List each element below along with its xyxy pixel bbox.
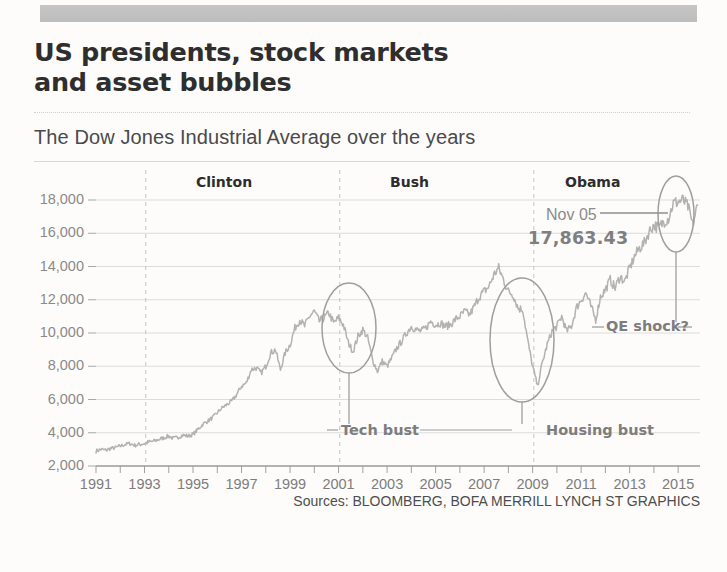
page-title: US presidents, stock markets and asset b… <box>34 38 674 98</box>
x-tick-label: 2009 <box>516 476 548 492</box>
annotation-qe-shock: QE shock? <box>606 318 689 334</box>
source-credit: Sources: BLOOMBERG, BOFA MERRILL LYNCH S… <box>0 493 700 509</box>
x-tick-label: 2005 <box>419 476 451 492</box>
x-tick-label: 2003 <box>371 476 403 492</box>
divider-dotted <box>34 112 690 114</box>
callout-value-label: 17,863.43 <box>528 228 628 248</box>
president-label-obama: Obama <box>565 174 620 190</box>
x-tick-label: 2013 <box>614 476 646 492</box>
qe-shock-ellipse <box>658 176 694 252</box>
y-tick-label: 18,000 <box>0 191 84 207</box>
top-gray-bar <box>40 5 697 22</box>
tech-bust-ellipse <box>322 283 376 373</box>
headline-line-2: and asset bubbles <box>34 68 674 98</box>
y-tick-label: 8,000 <box>0 357 84 373</box>
y-tick-label: 2,000 <box>0 457 84 473</box>
president-dividers <box>146 170 534 466</box>
x-tick-label: 1997 <box>225 476 257 492</box>
x-tick-label: 2011 <box>566 476 597 492</box>
annotation-tech-bust: Tech bust <box>341 422 419 438</box>
president-label-clinton: Clinton <box>196 174 252 190</box>
x-tick-label: 2007 <box>468 476 500 492</box>
y-tick-label: 16,000 <box>0 224 84 240</box>
president-label-bush: Bush <box>390 174 429 190</box>
x-tick-label: 1991 <box>80 476 112 492</box>
y-tick-label: 6,000 <box>0 391 84 407</box>
y-tick-label: 12,000 <box>0 291 84 307</box>
x-tick-label: 1995 <box>177 476 209 492</box>
headline-line-1: US presidents, stock markets <box>34 37 448 67</box>
x-tick-label: 2001 <box>322 476 354 492</box>
y-tick-label: 4,000 <box>0 424 84 440</box>
divider-solid <box>34 161 690 162</box>
housing-bust-ellipse <box>490 278 554 402</box>
y-tick-label: 14,000 <box>0 258 84 274</box>
x-tick-label: 1999 <box>274 476 306 492</box>
y-tick-label: 10,000 <box>0 324 84 340</box>
annotation-housing-bust: Housing bust <box>546 422 654 438</box>
infographic-page: US presidents, stock markets and asset b… <box>0 0 727 572</box>
callout-date-label: Nov 05 <box>546 206 597 224</box>
x-tick-label: 1993 <box>128 476 160 492</box>
chart-subtitle: The Dow Jones Industrial Average over th… <box>34 126 475 149</box>
x-tick-label: 2015 <box>662 476 694 492</box>
x-axis-ticks <box>96 466 678 473</box>
